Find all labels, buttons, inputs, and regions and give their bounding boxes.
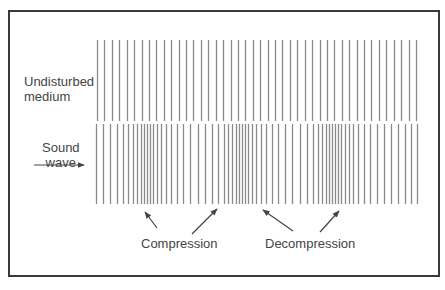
undisturbed-medium-label: Undisturbed medium	[24, 74, 94, 104]
decompression-arrow-left	[263, 210, 293, 231]
sound-label-line1: Sound	[42, 140, 80, 155]
undisturbed-label-line1: Undisturbed	[24, 74, 94, 89]
sound-wave-lines	[97, 124, 418, 204]
annotation-arrows	[34, 165, 339, 234]
sound-wave-label: Sound wave	[42, 140, 80, 170]
compression-arrow-right	[192, 209, 217, 234]
decompression-arrow-right	[320, 211, 339, 232]
decompression-label: Decompression	[265, 236, 355, 251]
undisturbed-medium-lines	[98, 40, 417, 121]
compression-arrow-left	[145, 212, 157, 228]
undisturbed-label-line2: medium	[24, 89, 94, 104]
compression-label: Compression	[141, 236, 218, 251]
sound-label-line2: wave	[42, 155, 80, 170]
